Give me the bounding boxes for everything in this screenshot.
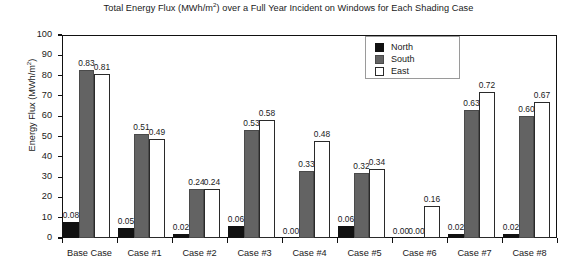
x-tick-label: Case #4 <box>282 249 337 258</box>
x-tick-mark <box>282 238 283 243</box>
bar-east <box>149 139 165 238</box>
bar-south <box>464 110 480 238</box>
bar-south <box>354 173 370 238</box>
bar-east <box>259 120 275 238</box>
bar-south <box>134 134 150 238</box>
x-tick-label: Case #6 <box>392 249 447 258</box>
y-tick-label: 10 <box>6 213 52 222</box>
y-tick-label: 30 <box>6 172 52 181</box>
legend-label: East <box>391 67 409 76</box>
bar-south <box>299 171 315 238</box>
legend-item-north[interactable]: North <box>375 41 459 53</box>
bar-east <box>94 74 110 238</box>
chart-title-tail: ) over a Full Year Incident on Windows f… <box>217 3 474 13</box>
x-tick-label: Case #7 <box>447 249 502 258</box>
bar-value-label: 0.81 <box>87 63 117 71</box>
bar-value-label: 0.48 <box>307 130 337 138</box>
chart-title: Total Energy Flux (MWh/m2) over a Full Y… <box>0 3 577 13</box>
bar-north <box>503 234 519 238</box>
x-tick-mark <box>557 238 558 243</box>
x-tick-mark <box>62 238 63 243</box>
y-tick-label: 0 <box>6 233 52 242</box>
legend-item-south[interactable]: South <box>375 53 459 65</box>
bar-north <box>63 222 79 238</box>
chart-legend: NorthSouthEast <box>365 36 460 79</box>
bar-east <box>534 102 550 238</box>
y-tick-label: 50 <box>6 132 52 141</box>
x-tick-label: Case #3 <box>227 249 282 258</box>
bar-value-label: 0.34 <box>362 158 392 166</box>
bar-south <box>244 130 260 238</box>
y-axis-title-superscript: 2 <box>25 62 32 65</box>
x-tick-label: Case #8 <box>502 249 557 258</box>
x-tick-mark <box>117 238 118 243</box>
bar-east <box>314 141 330 238</box>
y-tick-label: 100 <box>6 30 52 39</box>
x-tick-label: Case #5 <box>337 249 392 258</box>
bar-south <box>189 189 205 238</box>
y-tick-label: 40 <box>6 152 52 161</box>
bar-east <box>424 206 440 238</box>
bar-value-label: 0.49 <box>142 128 172 136</box>
legend-swatch-south-icon <box>375 55 384 64</box>
chart-figure: Total Energy Flux (MWh/m2) over a Full Y… <box>0 0 577 269</box>
bar-east <box>204 189 220 238</box>
y-tick-label: 80 <box>6 71 52 80</box>
bar-east <box>479 92 495 238</box>
legend-label: North <box>391 43 413 52</box>
bar-north <box>338 226 354 238</box>
legend-item-east[interactable]: East <box>375 65 459 77</box>
bar-value-label: 0.24 <box>197 178 227 186</box>
y-tick-label: 70 <box>6 91 52 100</box>
legend-label: South <box>391 55 415 64</box>
bar-north <box>228 226 244 238</box>
bar-value-label: 0.16 <box>417 195 447 203</box>
x-tick-mark <box>227 238 228 243</box>
y-tick-label: 90 <box>6 50 52 59</box>
x-tick-mark <box>447 238 448 243</box>
y-tick-label: 20 <box>6 192 52 201</box>
x-tick-mark <box>337 238 338 243</box>
legend-swatch-north-icon <box>375 43 384 52</box>
x-tick-label: Case #1 <box>117 249 172 258</box>
bar-north <box>118 228 134 238</box>
x-tick-mark <box>502 238 503 243</box>
x-tick-label: Base Case <box>62 249 117 258</box>
y-tick-label: 60 <box>6 111 52 120</box>
bar-east <box>369 169 385 238</box>
bar-value-label: 0.67 <box>527 91 557 99</box>
bar-north <box>448 234 464 238</box>
chart-title-main: Total Energy Flux (MWh/m <box>104 3 213 13</box>
x-tick-mark <box>392 238 393 243</box>
bar-south <box>519 116 535 238</box>
bar-value-label: 0.72 <box>472 81 502 89</box>
bar-north <box>173 234 189 238</box>
x-tick-mark <box>172 238 173 243</box>
x-tick-label: Case #2 <box>172 249 227 258</box>
legend-swatch-east-icon <box>375 67 384 76</box>
bar-south <box>79 70 95 238</box>
y-axis-title: Energy Flux (MWh/m2) <box>27 15 37 195</box>
bar-value-label: 0.58 <box>252 109 282 117</box>
